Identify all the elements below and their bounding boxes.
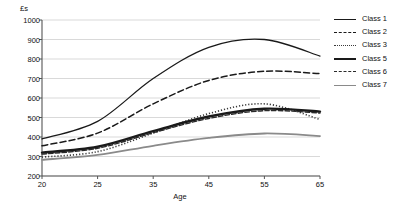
legend-item-label: Class 2: [357, 27, 387, 36]
line-chart: £s 1000900800700600500400300200 20253545…: [0, 0, 403, 218]
legend-item-class-3[interactable]: Class 3: [333, 38, 403, 51]
legend-item-label: Class 6: [357, 67, 387, 76]
series-line-class-5: [42, 109, 320, 153]
series-line-class-6: [42, 110, 320, 154]
legend-item-label: Class 1: [357, 14, 387, 23]
legend-line-swatch-icon: [333, 66, 357, 76]
legend-line-swatch-icon: [333, 80, 357, 90]
y-axis-tick-label: 500: [10, 114, 40, 123]
x-axis-tick-label: 55: [249, 180, 279, 189]
legend-item-class-1[interactable]: Class 1: [333, 12, 403, 25]
chart-legend: Class 1Class 2Class 3Class 5Class 6Class…: [333, 12, 403, 91]
y-axis-tick-label: 1000: [10, 16, 40, 25]
legend-item-label: Class 5: [357, 54, 387, 63]
y-axis-tick-label: 600: [10, 94, 40, 103]
legend-line-swatch-icon: [333, 53, 357, 63]
legend-item-class-6[interactable]: Class 6: [333, 65, 403, 78]
legend-item-class-2[interactable]: Class 2: [333, 25, 403, 38]
y-axis-tick-label: 700: [10, 75, 40, 84]
legend-item-label: Class 7: [357, 80, 387, 89]
x-axis-tick-label: 25: [83, 180, 113, 189]
legend-line-swatch-icon: [333, 14, 357, 24]
y-axis-tick-label: 400: [10, 133, 40, 142]
x-axis-tick-label: 65: [305, 180, 335, 189]
x-axis-tick-label: 35: [138, 180, 168, 189]
legend-item-class-5[interactable]: Class 5: [333, 52, 403, 65]
y-axis-tick-label: 300: [10, 153, 40, 162]
legend-line-swatch-icon: [333, 27, 357, 37]
legend-item-label: Class 3: [357, 40, 387, 49]
legend-item-class-7[interactable]: Class 7: [333, 78, 403, 91]
x-axis-label: Age: [0, 192, 360, 201]
x-axis-tick-label: 45: [194, 180, 224, 189]
y-axis-tick-label: 800: [10, 55, 40, 64]
x-axis-tick-label: 20: [27, 180, 57, 189]
y-axis-tick-label: 900: [10, 36, 40, 45]
legend-line-swatch-icon: [333, 40, 357, 50]
